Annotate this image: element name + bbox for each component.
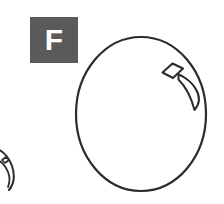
panel-label-box: F [30,17,78,63]
panel-label-letter: F [45,25,63,55]
figure-panel: F [0,0,224,204]
